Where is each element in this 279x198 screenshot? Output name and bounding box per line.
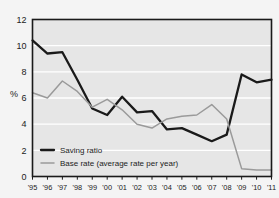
x-tick-label: '03 [147, 183, 157, 192]
x-tick-label: '99 [87, 183, 97, 192]
y-tick-label: 4 [21, 119, 26, 129]
y-tick-label: 0 [21, 172, 26, 182]
line-chart: 024681012 '95'96'97'98'99'00'01'02'03'04… [0, 0, 279, 198]
x-tick-label: '07 [207, 183, 217, 192]
x-tick-label: '02 [132, 183, 142, 192]
y-tick-label: 10 [16, 41, 26, 51]
x-tick-label: '01 [117, 183, 127, 192]
y-tick-label: 8 [21, 67, 26, 77]
x-tick-label: '05 [177, 183, 187, 192]
y-axis-title: % [10, 89, 18, 99]
legend-label: Saving ratio [60, 146, 103, 155]
x-tick-label: '00 [102, 183, 112, 192]
chart-figure: 024681012 '95'96'97'98'99'00'01'02'03'04… [0, 0, 279, 198]
x-tick-label: '98 [72, 183, 82, 192]
x-tick-label: '09 [237, 183, 247, 192]
x-tick-label: '95 [28, 183, 38, 192]
x-tick-label: '10 [252, 183, 262, 192]
x-tick-label: '97 [58, 183, 68, 192]
x-tick-label: '96 [43, 183, 53, 192]
x-tick-label: '08 [222, 183, 232, 192]
x-tick-label: '06 [192, 183, 202, 192]
y-tick-label: 12 [16, 15, 26, 25]
x-axis-tick-labels: '95'96'97'98'99'00'01'02'03'04'05'06'07'… [28, 183, 276, 192]
y-tick-label: 2 [21, 146, 26, 156]
x-tick-label: '04 [162, 183, 172, 192]
y-tick-label: 6 [21, 93, 26, 103]
x-tick-label: '11 [267, 183, 276, 192]
legend-label: Base rate (average rate per year) [60, 159, 179, 168]
